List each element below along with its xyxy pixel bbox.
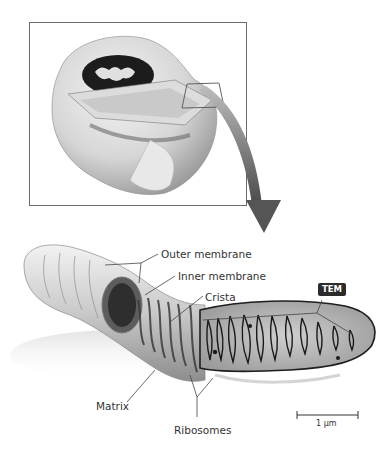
tem-badge: TEM (318, 283, 346, 296)
scale-bar (297, 411, 358, 419)
label-ribosomes: Ribosomes (174, 425, 231, 436)
label-matrix: Matrix (96, 401, 129, 412)
diagram-artwork (0, 0, 387, 458)
scale-bar-label: 1 µm (316, 419, 337, 428)
label-crista: Crista (205, 292, 236, 303)
cell-cutaway (52, 36, 224, 194)
label-outer-membrane: Outer membrane (161, 249, 252, 260)
mitochondrion-illustration (10, 245, 375, 382)
label-inner-membrane: Inner membrane (178, 271, 266, 282)
